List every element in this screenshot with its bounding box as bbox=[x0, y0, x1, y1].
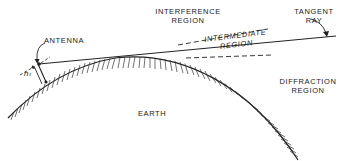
interference-region-label: INTERFERENCE REGION bbox=[143, 7, 233, 25]
diffraction-label-line2: REGION bbox=[275, 86, 341, 95]
antenna-height-label: hₜ bbox=[24, 69, 32, 78]
interference-label-line2: REGION bbox=[143, 16, 233, 25]
tangent-ray-label: TANGENT RAY bbox=[290, 7, 338, 25]
antenna-dash-upper bbox=[41, 57, 50, 63]
antenna-pointer bbox=[37, 43, 45, 60]
tangent-ray-label-line2: RAY bbox=[290, 16, 338, 25]
interference-label-line1: INTERFERENCE bbox=[143, 7, 233, 16]
earth-label: EARTH bbox=[138, 109, 166, 118]
intermediate-boundary-lower bbox=[186, 55, 272, 58]
antenna bbox=[31, 62, 48, 84]
antenna-label: ANTENNA bbox=[44, 36, 84, 45]
diffraction-label-line1: DIFFRACTION bbox=[275, 77, 341, 86]
tangent-ray-arrowhead bbox=[323, 31, 329, 37]
radio-propagation-diagram: INTERFERENCE REGION TANGENT RAY ANTENNA … bbox=[0, 0, 346, 161]
tangent-ray-label-line1: TANGENT bbox=[290, 7, 338, 16]
diffraction-region-label: DIFFRACTION REGION bbox=[275, 77, 341, 95]
earth-hatching bbox=[11, 57, 298, 157]
